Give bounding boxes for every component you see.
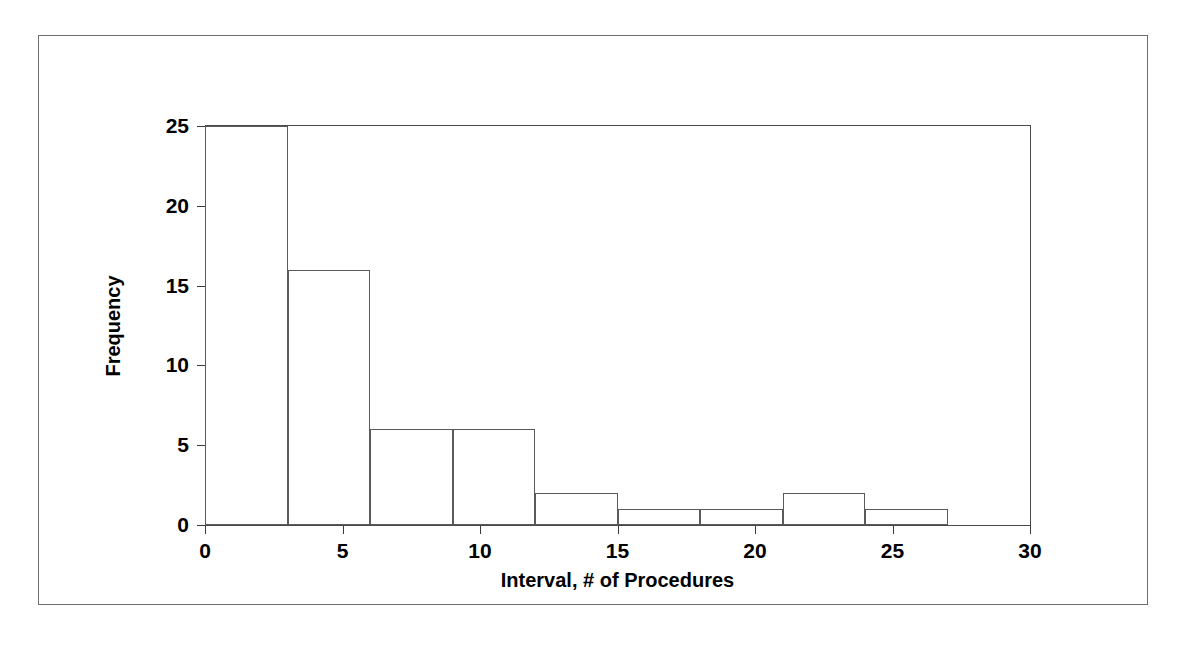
y-tick-mark (197, 206, 205, 207)
x-tick-mark (893, 526, 894, 534)
x-tick-label: 5 (337, 539, 349, 563)
y-tick-label: 5 (147, 433, 189, 457)
y-tick-label: 25 (147, 114, 189, 138)
x-tick-label: 30 (1018, 539, 1041, 563)
x-tick-mark (343, 526, 344, 534)
y-tick-label: 15 (147, 274, 189, 298)
x-tick-label: 0 (199, 539, 211, 563)
x-tick-mark (1030, 526, 1031, 534)
y-tick-mark (197, 525, 205, 526)
histogram-bar (700, 509, 783, 525)
x-tick-label: 10 (468, 539, 491, 563)
x-tick-label: 25 (881, 539, 904, 563)
histogram-bar (618, 509, 701, 525)
y-axis-title: Frequency (102, 275, 125, 376)
y-tick-mark (197, 365, 205, 366)
histogram-bar (783, 493, 866, 525)
histogram-bar (370, 429, 453, 525)
histogram-bar (288, 270, 371, 525)
y-tick-mark (197, 126, 205, 127)
histogram-bar (535, 493, 618, 525)
y-tick-label: 10 (147, 353, 189, 377)
histogram-bar (205, 126, 288, 525)
histogram-bar (865, 509, 948, 525)
y-tick-label: 0 (147, 513, 189, 537)
x-axis-title: Interval, # of Procedures (205, 569, 1030, 592)
x-tick-mark (480, 526, 481, 534)
y-tick-mark (197, 286, 205, 287)
x-tick-mark (618, 526, 619, 534)
x-tick-label: 15 (606, 539, 629, 563)
x-tick-mark (755, 526, 756, 534)
figure-frame: 0510152025 051015202530 Interval, # of P… (38, 35, 1148, 605)
x-tick-mark (205, 526, 206, 534)
y-tick-label: 20 (147, 194, 189, 218)
histogram-bar (453, 429, 536, 525)
plot-right-border (1030, 125, 1031, 526)
plot-area (205, 126, 1030, 525)
x-tick-label: 20 (743, 539, 766, 563)
y-tick-mark (197, 445, 205, 446)
